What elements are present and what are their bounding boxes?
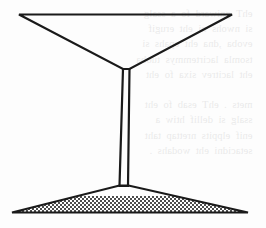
glass-stem <box>120 69 130 186</box>
scanned-page: ehT gniward fo a ssalg si nwohs ni eht e… <box>0 0 266 228</box>
glass-bowl <box>19 15 232 70</box>
cocktail-glass-line-drawing <box>0 0 266 228</box>
